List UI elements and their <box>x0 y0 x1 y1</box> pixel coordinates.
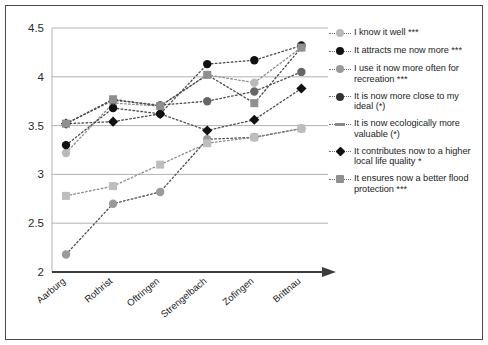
legend-marker-circle-icon <box>329 64 351 75</box>
chart-figure: 22.533.544.5AarburgRothristOftringenStre… <box>0 0 488 345</box>
y-axis-tick-label: 2 <box>38 266 44 278</box>
legend-item: It is now ecologically more valuable (*) <box>329 118 479 139</box>
data-point-marker <box>62 149 70 157</box>
legend-marker-diamond-icon <box>329 146 351 157</box>
legend-item: I know it well *** <box>329 27 479 39</box>
data-point-marker <box>109 182 117 190</box>
data-point-marker <box>250 78 258 86</box>
legend-item-label: It ensures now a better flood protection… <box>354 173 479 194</box>
data-point-marker <box>203 71 211 79</box>
x-axis-tick-label: Strengelbach <box>159 275 209 319</box>
legend-item-label: It attracts me now more *** <box>354 45 462 56</box>
data-point-marker <box>156 188 164 196</box>
x-axis-tick-label: Rothrist <box>82 275 114 305</box>
series-line <box>66 72 301 124</box>
data-point-marker <box>109 199 117 207</box>
data-point-marker <box>202 125 212 135</box>
series-line <box>66 89 301 131</box>
y-axis-tick-label: 3 <box>38 168 44 180</box>
series-line <box>66 48 301 124</box>
x-axis-arrowhead-icon <box>322 267 336 277</box>
data-point-marker <box>62 120 70 128</box>
legend-item: It contributes now to a higher local lif… <box>329 146 479 167</box>
data-point-marker <box>250 87 258 95</box>
data-point-marker <box>203 60 211 68</box>
data-point-marker <box>203 97 211 105</box>
data-point-marker <box>297 68 305 76</box>
data-point-marker <box>297 44 305 52</box>
series-line <box>66 129 301 196</box>
data-point-marker <box>203 139 211 147</box>
chart-legend: I know it well ***It attracts me now mor… <box>329 27 479 201</box>
y-axis-tick-label: 2.5 <box>28 217 44 229</box>
x-axis-tick-label: Aarburg <box>34 275 67 305</box>
legend-item-label: It contributes now to a higher local lif… <box>354 146 479 167</box>
data-point-marker <box>250 99 258 107</box>
data-point-marker <box>109 95 117 103</box>
data-point-marker <box>297 125 305 133</box>
x-axis-tick-label: Oftringen <box>124 275 161 309</box>
y-axis-tick-label: 3.5 <box>28 120 44 132</box>
legend-item-label: It is now more close to my ideal (*) <box>354 91 479 112</box>
x-axis-tick-label: Brittnau <box>271 275 303 304</box>
legend-item: It attracts me now more *** <box>329 45 479 57</box>
legend-marker-circle-icon <box>329 28 351 39</box>
legend-item: It ensures now a better flood protection… <box>329 173 479 194</box>
legend-marker-square-icon <box>329 174 351 185</box>
x-axis-tick-label: Zofingen <box>220 275 255 307</box>
data-point-marker <box>156 161 164 169</box>
legend-item-label: I know it well *** <box>354 27 418 38</box>
series-line <box>66 129 301 255</box>
data-point-marker <box>109 104 117 112</box>
legend-item-label: It is now ecologically more valuable (*) <box>354 118 479 139</box>
legend-item-label: I use it now more often for recreation *… <box>354 63 479 84</box>
legend-item: It is now more close to my ideal (*) <box>329 91 479 112</box>
data-point-marker <box>62 141 70 149</box>
data-point-marker <box>250 56 258 64</box>
data-point-marker <box>62 250 70 258</box>
data-point-marker <box>296 83 306 93</box>
y-axis-tick-label: 4 <box>38 71 45 83</box>
series-line <box>66 48 301 153</box>
legend-marker-dash-icon <box>329 119 351 130</box>
legend-item: I use it now more often for recreation *… <box>329 63 479 84</box>
data-point-marker <box>250 133 258 141</box>
legend-marker-circle-icon <box>329 91 351 102</box>
series-line <box>66 46 301 146</box>
data-point-marker <box>62 192 70 200</box>
data-point-marker <box>249 115 259 125</box>
data-point-marker <box>156 102 164 110</box>
legend-marker-circle-icon <box>329 46 351 57</box>
y-axis-tick-label: 4.5 <box>28 22 44 34</box>
